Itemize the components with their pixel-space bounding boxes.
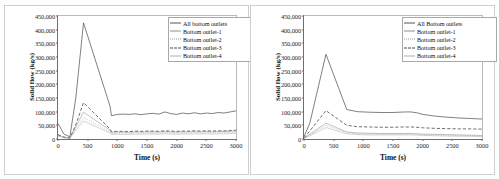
x-tick-label: 500 — [329, 142, 339, 149]
figure-container: Solid flow (kg/s) Smooth roughness 050,0… — [0, 0, 499, 179]
x-tick-label: 2000 — [170, 142, 183, 149]
legend-item-label: Bottom outlet-4 — [183, 52, 222, 59]
x-tick-mark — [333, 139, 334, 141]
y-tick-label: 150,000 — [281, 95, 301, 102]
legend-line-swatch — [404, 45, 415, 51]
y-tick-label: 400,000 — [35, 26, 55, 33]
legend-item-label: Bottom outlet-1 — [417, 28, 456, 35]
legend-item-label: Bottom outlet-1 — [183, 28, 222, 35]
legend-line-swatch — [170, 45, 181, 51]
legend-item[interactable]: All Bottom outlets — [404, 19, 494, 27]
legend-item[interactable]: Bottom outlet-1 — [404, 27, 494, 35]
x-tick-mark — [393, 139, 394, 141]
legend-item[interactable]: Bottom outlet-4 — [170, 52, 248, 60]
x-axis-label-left: Time (s) — [57, 153, 237, 162]
legend-item[interactable]: Bottom outlet-2 — [170, 35, 248, 43]
legend-line-swatch — [170, 53, 181, 59]
y-tick-label: 200,000 — [35, 81, 55, 88]
legend-item[interactable]: Bottom outlet-3 — [404, 44, 494, 52]
x-tick-mark — [482, 139, 483, 141]
y-tick-label: 300,000 — [281, 54, 301, 61]
legend-item[interactable]: Bottom outlet-3 — [170, 44, 248, 52]
x-tick-mark — [236, 139, 237, 141]
y-tick-mark — [302, 29, 304, 30]
legend-line-swatch — [404, 20, 415, 26]
y-tick-mark — [56, 43, 58, 44]
y-tick-label: 100,000 — [35, 108, 55, 115]
plot-wrapper-right: Solid flow (kg/s) High roughness 050,000… — [251, 6, 494, 174]
y-tick-mark — [56, 57, 58, 58]
legend-item-label: Bottom outlet-2 — [417, 36, 456, 43]
y-tick-mark — [302, 43, 304, 44]
y-tick-label: 50,000 — [38, 122, 55, 129]
x-tick-label: 2500 — [200, 142, 213, 149]
y-tick-label: 150,000 — [35, 95, 55, 102]
data-series-line — [58, 121, 236, 138]
legend-line-swatch — [404, 28, 415, 34]
legend-item[interactable]: Bottom outlet-2 — [404, 35, 494, 43]
legend-item[interactable]: All bottom outlets — [170, 19, 248, 27]
y-tick-label: 450,000 — [35, 13, 55, 20]
legend-right: All Bottom outletsBottom outlet-1Bottom … — [402, 17, 497, 62]
x-axis-label-right: Time (s) — [303, 153, 483, 162]
x-tick-mark — [363, 139, 364, 141]
legend-item-label: All Bottom outlets — [417, 20, 462, 27]
y-tick-mark — [56, 84, 58, 85]
y-tick-label: 0 — [52, 136, 55, 143]
y-tick-label: 300,000 — [35, 54, 55, 61]
legend-item-label: Bottom outlet-3 — [183, 44, 222, 51]
x-tick-label: 3000 — [476, 142, 489, 149]
x-tick-mark — [117, 139, 118, 141]
data-series-line — [58, 103, 236, 138]
legend-left: All bottom outletsBottom outlet-1Bottom … — [168, 17, 251, 62]
y-tick-mark — [56, 29, 58, 30]
legend-line-swatch — [404, 53, 415, 59]
y-tick-mark — [56, 125, 58, 126]
legend-item-label: Bottom outlet-2 — [183, 36, 222, 43]
x-tick-mark — [147, 139, 148, 141]
chart-panel-smooth-roughness: Solid flow (kg/s) Smooth roughness 050,0… — [4, 5, 249, 175]
x-tick-mark — [176, 139, 177, 141]
x-tick-label: 2500 — [446, 142, 459, 149]
y-tick-mark — [56, 111, 58, 112]
y-tick-mark — [302, 98, 304, 99]
y-tick-mark — [56, 16, 58, 17]
chart-panel-high-roughness: Solid flow (kg/s) High roughness 050,000… — [250, 5, 495, 175]
y-tick-label: 350,000 — [281, 40, 301, 47]
y-tick-mark — [56, 98, 58, 99]
y-tick-mark — [302, 70, 304, 71]
x-tick-label: 2000 — [416, 142, 429, 149]
legend-line-swatch — [170, 20, 181, 26]
y-tick-mark — [302, 125, 304, 126]
x-tick-label: 1000 — [111, 142, 124, 149]
legend-item-label: Bottom outlet-3 — [417, 44, 456, 51]
y-tick-label: 100,000 — [281, 108, 301, 115]
x-tick-label: 1500 — [387, 142, 400, 149]
legend-item[interactable]: Bottom outlet-4 — [404, 52, 494, 60]
y-tick-mark — [56, 70, 58, 71]
x-tick-mark — [422, 139, 423, 141]
y-tick-label: 200,000 — [281, 81, 301, 88]
x-tick-label: 1500 — [141, 142, 154, 149]
legend-item[interactable]: Bottom outlet-1 — [170, 27, 248, 35]
x-tick-mark — [206, 139, 207, 141]
legend-line-swatch — [170, 36, 181, 42]
legend-item-label: All bottom outlets — [183, 20, 227, 27]
y-tick-label: 400,000 — [281, 26, 301, 33]
x-tick-label: 500 — [83, 142, 93, 149]
legend-item-label: Bottom outlet-4 — [417, 52, 456, 59]
x-tick-mark — [304, 139, 305, 141]
y-tick-mark — [302, 16, 304, 17]
y-tick-label: 250,000 — [35, 67, 55, 74]
x-tick-mark — [58, 139, 59, 141]
y-tick-label: 0 — [298, 136, 301, 143]
y-tick-label: 250,000 — [281, 67, 301, 74]
data-series-line — [58, 118, 236, 139]
x-tick-mark — [452, 139, 453, 141]
x-tick-label: 0 — [302, 142, 305, 149]
legend-line-swatch — [170, 28, 181, 34]
y-tick-label: 350,000 — [35, 40, 55, 47]
x-tick-label: 0 — [56, 142, 59, 149]
y-tick-mark — [302, 84, 304, 85]
y-tick-mark — [302, 57, 304, 58]
